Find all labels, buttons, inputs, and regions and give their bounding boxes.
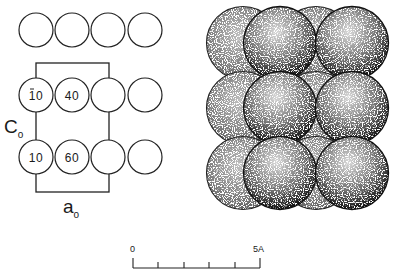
- atom-circle: [91, 13, 125, 47]
- atom-circle: 40: [55, 78, 89, 112]
- atom-circle: [91, 78, 125, 112]
- atom-height-label: 10: [29, 89, 43, 103]
- atom-circle: [19, 13, 53, 47]
- c-axis-label: Co: [4, 116, 24, 140]
- front-sphere: [244, 7, 317, 80]
- atom-circle: 10: [19, 140, 53, 174]
- atom-circle: [91, 140, 125, 174]
- atom-circle: [128, 13, 162, 47]
- atom-height-label: 10: [29, 151, 43, 165]
- atom-circles: 10401060: [19, 13, 162, 174]
- atom-height-label: 60: [65, 151, 79, 165]
- front-sphere: [316, 137, 389, 210]
- front-sphere: [244, 72, 317, 145]
- a-axis-label: ao: [63, 196, 80, 220]
- atom-circle: [55, 13, 89, 47]
- front-layer-spheres: [244, 7, 389, 210]
- atom-circle: 10: [19, 78, 53, 112]
- front-sphere: [316, 7, 389, 80]
- atom-circle: 60: [55, 140, 89, 174]
- atom-circle: [128, 140, 162, 174]
- projection-panel: 10401060 Co ao: [4, 13, 162, 220]
- atom-circle: [128, 78, 162, 112]
- scale-start-label: 0: [130, 244, 135, 254]
- structure-diagram: 10401060 Co ao 0 5A: [0, 0, 396, 280]
- front-sphere: [244, 137, 317, 210]
- atom-height-label: 40: [65, 89, 79, 103]
- space-filling-panel: [207, 7, 389, 210]
- scale-end-label: 5A: [253, 244, 264, 254]
- front-sphere: [316, 72, 389, 145]
- scale-bar-lines: [133, 258, 260, 268]
- scale-bar: 0 5A: [130, 244, 264, 268]
